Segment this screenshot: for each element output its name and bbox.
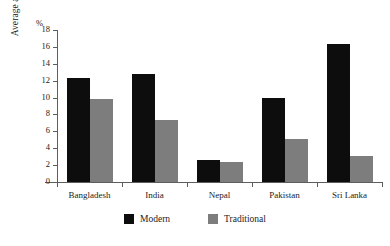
legend-item-traditional[interactable]: Traditional [208,214,266,224]
legend-swatch-icon [124,214,134,224]
y-axis-tick-label: 18 [42,24,51,35]
x-axis-category-label: India [122,190,187,200]
y-axis-tick-mark [53,30,57,31]
y-axis-tick-mark [53,98,57,99]
y-axis-tick-mark [53,114,57,115]
y-axis-tick-mark [53,64,57,65]
y-axis-tick-label: 16 [42,41,51,52]
x-axis-category-label: Nepal [187,190,252,200]
bar-group [132,30,178,182]
bar-nepal-modern [197,160,220,182]
x-axis-line [45,182,383,183]
y-axis-title: Average annual growth [10,0,24,56]
y-axis-tick-mark [53,47,57,48]
y-axis-tick-mark [53,131,57,132]
bar-group [197,30,243,182]
bar-group [67,30,113,182]
x-axis-tick-mark [317,182,318,187]
x-axis-category-label: Sri Lanka [317,190,382,200]
x-axis-category-label: Pakistan [252,190,317,200]
y-axis-tick-mark [53,148,57,149]
y-axis-tick-mark [53,81,57,82]
y-axis-tick-label: 0 [46,176,50,187]
y-axis-tick-label: 14 [42,58,51,69]
bar-bangladesh-traditional [90,99,113,182]
bar-sri-lanka-traditional [350,156,373,182]
bar-nepal-traditional [220,162,243,182]
bar-bangladesh-modern [67,78,90,182]
y-axis-tick-label: 10 [42,92,51,103]
x-axis-tick-mark [57,182,58,187]
legend-item-modern[interactable]: Modern [124,214,170,224]
bar-group [262,30,308,182]
y-axis-tick-label: 6 [46,125,50,136]
x-axis-tick-mark [187,182,188,187]
bar-sri-lanka-modern [327,44,350,182]
plot-area: 024681012141618 [57,30,382,182]
bar-india-traditional [155,120,178,182]
y-axis-tick-label: 4 [46,142,50,153]
legend-label: Traditional [224,214,266,224]
y-axis-tick-label: 12 [42,75,51,86]
y-axis-tick-mark [53,165,57,166]
bar-pakistan-traditional [285,139,308,182]
y-axis-tick-label: 2 [46,159,50,170]
x-axis-tick-mark [122,182,123,187]
legend: ModernTraditional [0,214,390,224]
bar-chart: Average annual growth % 024681012141618 … [0,0,390,246]
y-axis-tick-label: 8 [46,108,50,119]
bar-group [327,30,373,182]
bar-india-modern [132,74,155,182]
bar-pakistan-modern [262,98,285,182]
legend-label: Modern [140,214,170,224]
x-axis-tick-mark [382,182,383,187]
x-axis-tick-mark [252,182,253,187]
x-axis-category-label: Bangladesh [57,190,122,200]
legend-swatch-icon [208,214,218,224]
